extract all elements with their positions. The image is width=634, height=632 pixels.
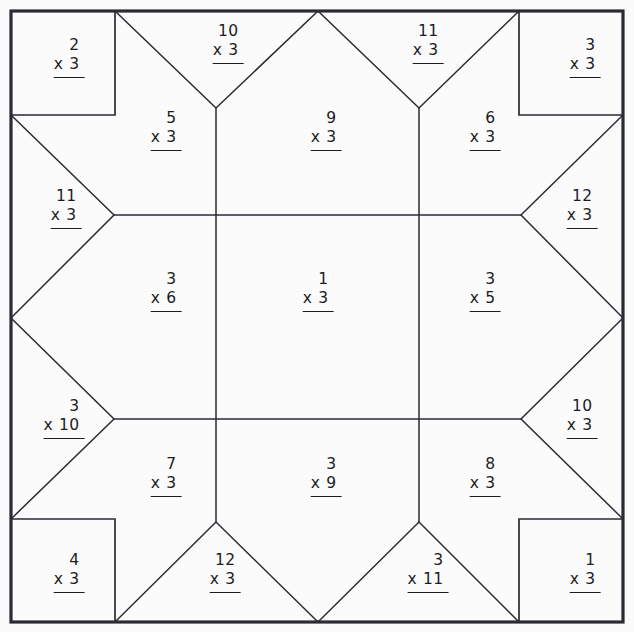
problem-multiplier-row: x3: [470, 128, 501, 151]
multiply-operator-icon: x: [470, 289, 479, 307]
problem-multiplicand: 3: [570, 38, 601, 55]
problem-multiplier: 11: [423, 570, 443, 588]
problem-multiplier: 9: [326, 474, 336, 492]
problem-multiplicand: 1: [570, 553, 601, 570]
problem-left-lower-point[interactable]: 3x10: [44, 399, 85, 439]
problem-multiplicand: 8: [470, 457, 501, 474]
problem-multiplier-row: x3: [567, 416, 598, 439]
multiply-operator-icon: x: [413, 41, 422, 59]
problem-multiplier: 3: [166, 474, 176, 492]
problem-bottom-right-point[interactable]: 3x11: [408, 553, 449, 593]
problem-left-upper-point[interactable]: 11x3: [51, 189, 82, 229]
problem-multiplier-row: x10: [44, 416, 85, 439]
problem-multiplier: 3: [582, 206, 592, 224]
problem-multiplicand: 4: [54, 553, 85, 570]
multiply-operator-icon: x: [213, 41, 222, 59]
multiply-operator-icon: x: [311, 128, 320, 146]
multiply-operator-icon: x: [151, 128, 160, 146]
problem-multiplier-row: x3: [210, 570, 241, 593]
problem-labels-layer: 2x310x311x33x35x39x36x311x312x33x61x33x5…: [0, 0, 634, 632]
problem-multiplicand: 3: [151, 272, 182, 289]
multiply-operator-icon: x: [567, 206, 576, 224]
problem-multiplier: 5: [485, 289, 495, 307]
problem-multiplier: 3: [69, 570, 79, 588]
problem-upper-left-kite[interactable]: 5x3: [151, 111, 182, 151]
problem-multiplier: 3: [585, 570, 595, 588]
problem-multiplier: 3: [582, 416, 592, 434]
problem-top-left-point[interactable]: 10x3: [213, 24, 244, 64]
problem-lower-center-kite[interactable]: 3x9: [311, 457, 342, 497]
problem-corner-top-left[interactable]: 2x3: [54, 38, 85, 78]
problem-multiplicand: 3: [408, 553, 449, 570]
multiply-operator-icon: x: [151, 474, 160, 492]
problem-multiplier: 6: [166, 289, 176, 307]
problem-multiplier-row: x3: [567, 206, 598, 229]
problem-multiplier: 3: [318, 289, 328, 307]
problem-right-upper-point[interactable]: 12x3: [567, 189, 598, 229]
multiply-operator-icon: x: [311, 474, 320, 492]
multiply-operator-icon: x: [51, 206, 60, 224]
problem-upper-right-kite[interactable]: 6x3: [470, 111, 501, 151]
problem-multiplier-row: x3: [213, 41, 244, 64]
problem-multiplier: 3: [326, 128, 336, 146]
problem-multiplier-row: x3: [151, 128, 182, 151]
multiply-operator-icon: x: [303, 289, 312, 307]
problem-multiplicand: 12: [567, 189, 598, 206]
problem-lower-left-kite[interactable]: 7x3: [151, 457, 182, 497]
problem-multiplicand: 2: [54, 38, 85, 55]
problem-multiplier: 10: [59, 416, 79, 434]
multiply-operator-icon: x: [210, 570, 219, 588]
problem-multiplier-row: x11: [408, 570, 449, 593]
problem-multiplicand: 7: [151, 457, 182, 474]
problem-upper-center-kite[interactable]: 9x3: [311, 111, 342, 151]
problem-multiplier-row: x3: [151, 474, 182, 497]
problem-multiplier-row: x3: [570, 55, 601, 78]
problem-multiplicand: 9: [311, 111, 342, 128]
problem-multiplicand: 3: [44, 399, 85, 416]
problem-multiplier-row: x3: [311, 128, 342, 151]
problem-multiplicand: 5: [151, 111, 182, 128]
problem-multiplier: 3: [428, 41, 438, 59]
multiply-operator-icon: x: [570, 55, 579, 73]
problem-multiplier-row: x3: [413, 41, 444, 64]
problem-multiplier: 3: [485, 128, 495, 146]
problem-multiplier-row: x6: [151, 289, 182, 312]
problem-multiplier: 3: [585, 55, 595, 73]
problem-multiplier-row: x3: [54, 55, 85, 78]
problem-corner-top-right[interactable]: 3x3: [570, 38, 601, 78]
problem-multiplicand: 6: [470, 111, 501, 128]
multiply-operator-icon: x: [44, 416, 53, 434]
problem-multiplier-row: x9: [311, 474, 342, 497]
problem-right-lower-point[interactable]: 10x3: [567, 399, 598, 439]
problem-top-right-point[interactable]: 11x3: [413, 24, 444, 64]
problem-multiplier-row: x3: [51, 206, 82, 229]
multiply-operator-icon: x: [570, 570, 579, 588]
problem-multiplier-row: x3: [303, 289, 334, 312]
problem-corner-bottom-right[interactable]: 1x3: [570, 553, 601, 593]
problem-middle-left[interactable]: 3x6: [151, 272, 182, 312]
problem-multiplicand: 11: [413, 24, 444, 41]
problem-multiplier: 3: [166, 128, 176, 146]
problem-multiplier: 3: [66, 206, 76, 224]
problem-multiplicand: 3: [311, 457, 342, 474]
multiply-operator-icon: x: [54, 55, 63, 73]
multiply-operator-icon: x: [470, 128, 479, 146]
problem-middle-right[interactable]: 3x5: [470, 272, 501, 312]
problem-multiplier-row: x3: [54, 570, 85, 593]
problem-multiplicand: 10: [567, 399, 598, 416]
problem-multiplier: 3: [228, 41, 238, 59]
problem-multiplier-row: x3: [470, 474, 501, 497]
quilt-diagram: 2x310x311x33x35x39x36x311x312x33x61x33x5…: [0, 0, 634, 632]
problem-multiplier: 3: [225, 570, 235, 588]
problem-lower-right-kite[interactable]: 8x3: [470, 457, 501, 497]
problem-bottom-left-point[interactable]: 12x3: [210, 553, 241, 593]
problem-multiplier: 3: [69, 55, 79, 73]
problem-multiplicand: 11: [51, 189, 82, 206]
problem-multiplier-row: x3: [570, 570, 601, 593]
problem-corner-bottom-left[interactable]: 4x3: [54, 553, 85, 593]
multiply-operator-icon: x: [54, 570, 63, 588]
problem-multiplier: 3: [485, 474, 495, 492]
multiply-operator-icon: x: [470, 474, 479, 492]
multiply-operator-icon: x: [567, 416, 576, 434]
problem-middle-center[interactable]: 1x3: [303, 272, 334, 312]
